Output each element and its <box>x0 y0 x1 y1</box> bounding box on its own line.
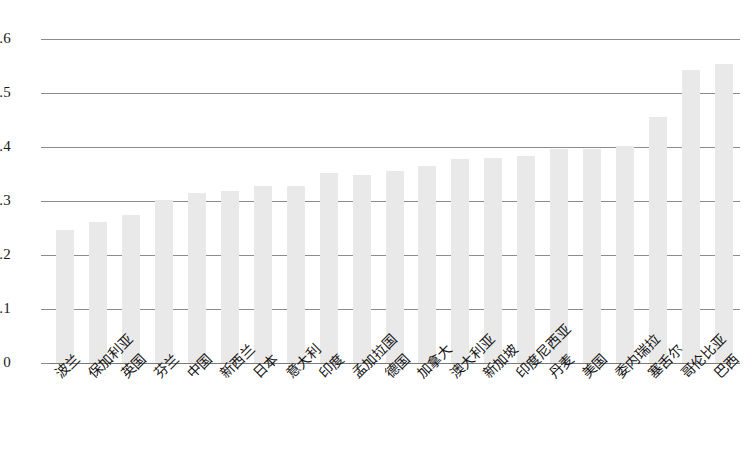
bar-芬兰[interactable] <box>155 200 173 363</box>
y-tick-mark-0.5 <box>41 93 49 94</box>
bar-委内瑞拉[interactable] <box>616 146 634 363</box>
bar-孟加拉国[interactable] <box>353 175 371 363</box>
bar-日本[interactable] <box>254 186 272 363</box>
y-tick-mark-0.3 <box>41 201 49 202</box>
bar-哥伦比亚[interactable] <box>682 70 700 363</box>
y-tick-mark-0.1 <box>41 309 49 310</box>
bar-美国[interactable] <box>583 149 601 363</box>
bar-新西兰[interactable] <box>221 191 239 363</box>
y-tick-label-0.6: 0.6 <box>0 31 11 46</box>
y-tick-mark-0 <box>41 363 49 364</box>
bar-series <box>49 39 740 363</box>
y-tick-mark-0.4 <box>41 147 49 148</box>
y-tick-label-0: 0 <box>0 355 11 370</box>
bar-塞舌尔[interactable] <box>649 117 667 363</box>
y-tick-label-0.2: 0.2 <box>0 247 11 262</box>
bar-巴西[interactable] <box>715 64 733 363</box>
bar-保加利亚[interactable] <box>89 222 107 363</box>
y-tick-label-0.1: 0.1 <box>0 301 11 316</box>
bar-中国[interactable] <box>188 193 206 363</box>
y-tick-mark-0.2 <box>41 255 49 256</box>
bar-澳大利亚[interactable] <box>451 159 469 363</box>
bar-chart: 00.10.20.30.40.50.6 波兰保加利亚英国芬兰中国新西兰日本意大利… <box>0 0 755 470</box>
y-tick-label-0.3: 0.3 <box>0 193 11 208</box>
bar-波兰[interactable] <box>56 230 74 363</box>
bar-印度尼西亚[interactable] <box>517 156 535 363</box>
y-tick-label-0.5: 0.5 <box>0 85 11 100</box>
y-tick-label-0.4: 0.4 <box>0 139 11 154</box>
bar-意大利[interactable] <box>287 186 305 363</box>
y-tick-mark-0.6 <box>41 39 49 40</box>
bar-加拿大[interactable] <box>418 166 436 363</box>
bar-印度[interactable] <box>320 173 338 363</box>
